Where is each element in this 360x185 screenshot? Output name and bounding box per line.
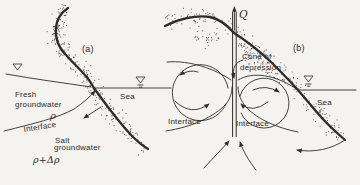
flow-arrow-right-top <box>253 87 279 92</box>
seafloor-flow-arrow <box>297 140 345 151</box>
interface-label-a: Interface <box>23 120 57 134</box>
sea-label-a: Sea <box>120 92 135 101</box>
landward-flow-arrow-a <box>84 107 101 118</box>
sea-level-icon-b <box>304 76 313 86</box>
inflow-arrow-right <box>240 142 256 170</box>
cone-of-depression-label: Cone of <box>242 52 272 61</box>
panel-b-tag: (b) <box>293 43 305 53</box>
interface-label-left: Interface <box>168 117 201 126</box>
salt-groundwater-label2: groundwater <box>54 143 101 152</box>
water-table-icon <box>13 64 22 70</box>
panel-a: (a) Fresh groundwater ρ Interface Sea Sa… <box>4 4 171 165</box>
interface-label-right: Interface <box>236 119 269 128</box>
panel-a-tag: (a) <box>82 44 94 54</box>
fresh-groundwater-label: Fresh <box>15 90 36 99</box>
panel-b: Q Cone of depression Interface Interface… <box>165 7 356 170</box>
fresh-groundwater-label2: groundwater <box>15 100 62 109</box>
inflow-arrow-left <box>204 141 229 168</box>
discharge-label: Q <box>239 8 248 21</box>
groundwater-diagram: (a) Fresh groundwater ρ Interface Sea Sa… <box>0 0 360 185</box>
water-table-line-a <box>6 74 91 87</box>
sea-label-b: Sea <box>317 98 332 107</box>
flow-arrow-left-inner <box>175 101 209 110</box>
salt-density-label: ρ+Δρ <box>32 154 60 165</box>
flow-arrow-left-top <box>180 71 198 75</box>
coastline-a <box>56 8 148 149</box>
cone-of-depression-label2: depression <box>240 63 281 72</box>
sea-level-icon-a <box>136 77 145 87</box>
